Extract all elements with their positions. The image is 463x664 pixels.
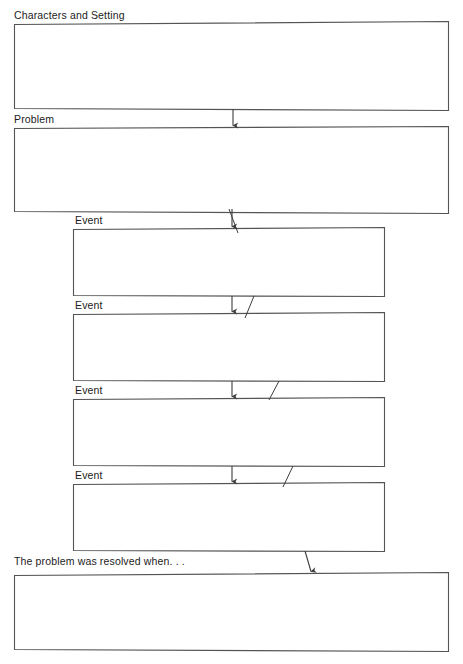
connector-event-2-to-event-3-leader-icon	[269, 381, 279, 400]
connector-event-4-to-resolution-arrow-icon	[305, 551, 311, 572]
problem-box[interactable]	[15, 127, 449, 214]
problem-label: Problem	[14, 113, 54, 126]
event-4-box[interactable]	[74, 483, 385, 552]
event-2-label: Event	[75, 299, 103, 312]
event-3-label: Event	[75, 384, 103, 397]
event-3-box[interactable]	[74, 398, 385, 467]
event-4-label: Event	[75, 469, 103, 482]
story-map-worksheet: Characters and Setting Problem Event Eve…	[0, 0, 463, 664]
resolution-label: The problem was resolved when. . .	[14, 555, 185, 568]
event-1-box[interactable]	[74, 228, 385, 297]
event-2-box[interactable]	[74, 313, 385, 382]
characters-and-setting-label: Characters and Setting	[14, 9, 125, 22]
characters-and-setting-box[interactable]	[15, 22, 449, 111]
event-1-label: Event	[75, 214, 103, 227]
resolution-box[interactable]	[15, 573, 449, 652]
